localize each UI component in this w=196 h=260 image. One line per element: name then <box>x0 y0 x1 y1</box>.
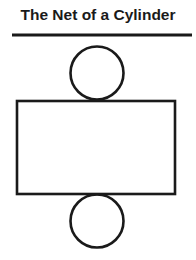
bottom-circle-base <box>71 195 124 248</box>
top-circle-base <box>71 47 124 100</box>
lateral-surface-rectangle <box>17 101 175 194</box>
cylinder-net-diagram <box>0 0 196 260</box>
